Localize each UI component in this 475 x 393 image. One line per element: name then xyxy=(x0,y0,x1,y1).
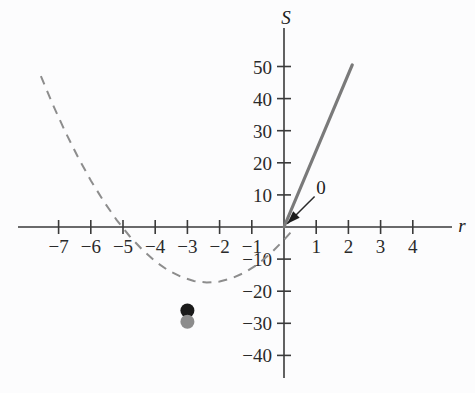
annotations-group: 0 xyxy=(287,177,326,224)
x-tick-label: −5 xyxy=(113,236,133,257)
x-tick-label: 3 xyxy=(376,236,386,257)
callout-label: 0 xyxy=(316,177,326,198)
y-tick-label: −30 xyxy=(242,313,272,334)
x-tick-label: 2 xyxy=(344,236,354,257)
axes-group xyxy=(18,28,452,378)
y-tick-label: −20 xyxy=(242,281,272,302)
chart-plot-area: −7−6−5−4−3−2−11234 5040302010−10−20−30−4… xyxy=(0,0,475,393)
x-axis-name: r xyxy=(458,215,466,236)
x-tick-labels-group: −7−6−5−4−3−2−11234 xyxy=(48,236,418,257)
x-tick-label: −6 xyxy=(81,236,101,257)
y-tick-label: 30 xyxy=(253,121,272,142)
series-solid-line xyxy=(284,65,352,227)
y-tick-label: −10 xyxy=(242,249,272,270)
y-tick-label: 40 xyxy=(253,89,272,110)
y-axis-name: S xyxy=(281,7,291,28)
y-tick-label: 20 xyxy=(253,153,272,174)
data-points-group xyxy=(180,303,194,328)
x-tick-label: 1 xyxy=(311,236,321,257)
x-tick-label: −7 xyxy=(48,236,68,257)
y-tick-labels-group: 5040302010−10−20−30−40 xyxy=(242,57,272,367)
x-tick-label: −3 xyxy=(177,236,197,257)
y-tick-label: 10 xyxy=(253,185,272,206)
y-tick-label: 50 xyxy=(253,57,272,78)
tick-marks-group xyxy=(59,67,413,356)
x-tick-label: 4 xyxy=(408,236,418,257)
chart-figure: −7−6−5−4−3−2−11234 5040302010−10−20−30−4… xyxy=(0,0,475,393)
data-point-gray-dot xyxy=(180,315,194,329)
x-tick-label: −2 xyxy=(209,236,229,257)
y-tick-label: −40 xyxy=(242,345,272,366)
